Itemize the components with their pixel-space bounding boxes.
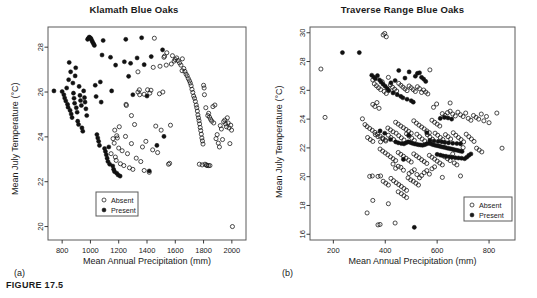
data-point-present: [94, 94, 98, 98]
data-point-present: [122, 60, 126, 64]
data-point-present: [129, 61, 133, 65]
y-tick-label: 28: [36, 43, 45, 51]
data-point-absent: [386, 133, 390, 137]
data-point-present: [127, 74, 131, 78]
data-point-absent: [462, 140, 466, 144]
data-point-absent: [464, 132, 468, 136]
data-point-absent: [225, 116, 229, 120]
data-point-absent: [440, 175, 444, 179]
data-point-present: [98, 80, 102, 84]
data-point-absent: [165, 51, 169, 55]
data-point-absent: [169, 62, 173, 66]
y-tick-label: 18: [298, 201, 307, 209]
data-point-present: [71, 81, 75, 85]
data-point-absent: [214, 137, 218, 141]
panel-a-plot: 8001000120014001600180020002022242628Abs…: [0, 0, 268, 268]
data-point-present: [403, 76, 407, 80]
data-point-absent: [112, 141, 116, 145]
data-point-absent: [170, 54, 174, 58]
x-tick-label: 1200: [110, 246, 127, 255]
data-point-present: [393, 78, 397, 82]
data-point-absent: [417, 135, 421, 139]
data-point-present: [72, 96, 76, 100]
data-point-absent: [469, 137, 473, 141]
figure-root: Klamath Blue Oaks Mean July Temperature …: [0, 0, 537, 298]
data-point-absent: [495, 111, 499, 115]
y-tick-label: 20: [36, 222, 45, 230]
data-point-absent: [500, 146, 504, 150]
data-point-present: [405, 97, 409, 101]
data-point-absent: [479, 112, 483, 116]
panel-b: Traverse Range Blue Oaks Mean July Tempe…: [268, 0, 537, 268]
legend-label-present: Present: [479, 211, 504, 220]
data-point-absent: [456, 110, 460, 114]
data-point-absent: [431, 105, 435, 109]
data-point-present: [397, 68, 401, 72]
data-point-present: [100, 53, 104, 57]
data-point-absent: [217, 145, 221, 149]
legend-marker-present: [102, 208, 106, 212]
y-tick-label: 24: [36, 133, 45, 141]
x-tick-label: 2000: [224, 246, 241, 255]
data-point-absent: [140, 145, 144, 149]
data-point-absent: [399, 136, 403, 140]
x-tick-label: 1400: [139, 246, 156, 255]
data-point-present: [340, 51, 344, 55]
data-point-absent: [122, 164, 126, 168]
data-point-present: [424, 79, 428, 83]
data-point-present: [92, 43, 96, 47]
data-point-present: [85, 114, 89, 118]
panel-a: Klamath Blue Oaks Mean July Temperature …: [0, 0, 268, 268]
data-point-absent: [230, 225, 234, 229]
data-point-absent: [402, 138, 406, 142]
data-point-absent: [401, 168, 405, 172]
y-tick-label: 26: [36, 88, 45, 96]
data-point-absent: [386, 202, 390, 206]
data-point-absent: [228, 142, 232, 146]
data-point-present: [73, 101, 77, 105]
data-point-present: [357, 51, 361, 55]
data-point-present: [375, 74, 379, 78]
data-point-absent: [113, 128, 117, 132]
data-point-absent: [467, 135, 471, 139]
legend-marker-present: [470, 213, 474, 217]
data-point-present: [67, 78, 71, 82]
data-point-absent: [129, 114, 133, 118]
data-point-present: [79, 103, 83, 107]
data-point-absent: [370, 174, 374, 178]
data-point-absent: [377, 106, 381, 110]
y-tick-label: 22: [36, 178, 45, 186]
data-point-present: [142, 63, 146, 67]
data-point-present: [131, 93, 135, 97]
y-tick-label: 22: [298, 144, 307, 152]
data-point-present: [469, 152, 473, 156]
data-point-absent: [164, 63, 168, 67]
data-point-absent: [472, 139, 476, 143]
data-point-present: [401, 96, 405, 100]
data-point-present: [77, 122, 81, 126]
data-point-present: [70, 116, 74, 120]
data-point-present: [99, 100, 103, 104]
data-point-present: [71, 91, 75, 95]
data-point-absent: [109, 152, 113, 156]
data-point-absent: [454, 133, 458, 137]
data-point-present: [124, 37, 128, 41]
data-point-absent: [120, 149, 124, 153]
data-point-present: [114, 63, 118, 67]
data-point-present: [67, 60, 71, 64]
data-point-absent: [461, 146, 465, 150]
x-tick-label: 800: [56, 246, 69, 255]
legend: AbsentPresent: [464, 197, 512, 221]
data-point-absent: [391, 162, 395, 166]
data-point-absent: [386, 75, 390, 79]
data-point-present: [149, 55, 153, 59]
data-point-absent: [161, 90, 165, 94]
data-point-absent: [151, 148, 155, 152]
data-point-absent: [123, 134, 127, 138]
data-point-absent: [375, 101, 379, 105]
data-point-absent: [464, 111, 468, 115]
data-point-present: [161, 48, 165, 52]
y-tick-label: 24: [298, 115, 307, 123]
x-tick-label: 200: [327, 246, 340, 255]
data-point-absent: [117, 125, 121, 129]
